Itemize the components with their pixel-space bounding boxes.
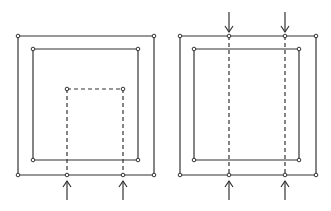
vertex-dot-icon	[192, 47, 196, 51]
vertex-dot-icon	[178, 173, 182, 177]
diagram-canvas	[0, 0, 331, 211]
vertex-dot-icon	[227, 34, 231, 38]
vertex-dot-icon	[31, 158, 35, 162]
vertex-dot-icon	[283, 173, 287, 177]
vertex-dot-icon	[297, 158, 301, 162]
vertex-dot-icon	[16, 173, 20, 177]
vertex-dot-icon	[314, 173, 318, 177]
vertex-dot-icon	[121, 173, 125, 177]
left-panel	[16, 34, 156, 200]
vertex-dot-icon	[152, 34, 156, 38]
vertex-dot-icon	[16, 34, 20, 38]
vertex-dot-icon	[121, 87, 125, 91]
vertex-dot-icon	[136, 158, 140, 162]
vertex-dot-icon	[297, 47, 301, 51]
vertex-dot-icon	[31, 47, 35, 51]
vertex-dot-icon	[152, 173, 156, 177]
vertex-dot-icon	[283, 34, 287, 38]
vertex-dot-icon	[192, 158, 196, 162]
vertex-dot-icon	[65, 173, 69, 177]
vertex-dot-icon	[65, 87, 69, 91]
vertex-dot-icon	[227, 173, 231, 177]
right-panel	[178, 12, 318, 200]
vertex-dot-icon	[136, 47, 140, 51]
vertex-dot-icon	[178, 34, 182, 38]
vertex-dot-icon	[314, 34, 318, 38]
